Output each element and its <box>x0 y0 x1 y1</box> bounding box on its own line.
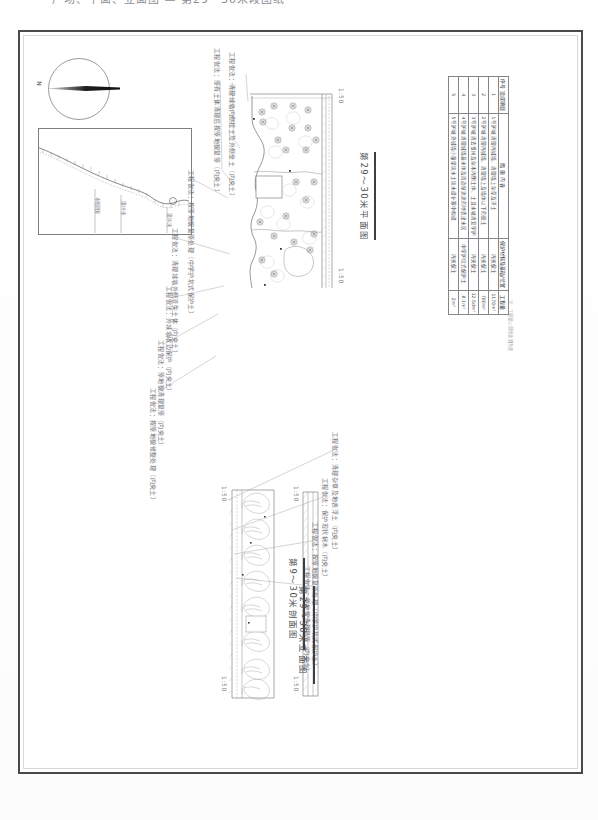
cell-material-1: 内夹保土 <box>488 239 498 291</box>
scale-mark-elev-bottom: 1:50 <box>221 676 228 692</box>
th-desc: 措 施 内 容 <box>498 113 508 238</box>
caption-plan-rule <box>374 152 376 240</box>
annotation-text-8: 工程做法：保护现状树木（内夹土） <box>321 478 330 580</box>
cell-detail-4: 清理城墙基水体及周边渐流流的地表出水区 <box>461 136 466 231</box>
cell-qty-5: 2m² <box>448 290 458 314</box>
annotation-text-5: 工程做法：原地貌清理复原（内夹土） <box>157 340 166 449</box>
caption-section-rule <box>313 586 315 684</box>
cell-qty-1: 1170m² <box>488 290 498 314</box>
table-header-row: 序号 造成项目 措 施 内 容 保护材料及基础/位置 工程量 <box>498 77 508 315</box>
cell-detail-2: 清理内城墙、清理墙上及墙体以下的挂土 <box>481 136 486 226</box>
annotation-text-1: 工程做法：清理城墙内侧挂土及外侧垒土（内夹土） <box>228 52 237 199</box>
quantity-table: 序号 造成项目 措 施 内 容 保护材料及基础/位置 工程量 1 1号护坡 清理… <box>448 76 509 315</box>
cell-detail-3: 清去根树及杂木内侧土体、土且水坡清复学护 <box>471 136 476 236</box>
annotation-text-7: 工程做法：清理杂草及地表浮土（内夹土） <box>331 432 340 554</box>
inset-label-2: 第30米 <box>167 213 173 227</box>
cell-material-2: 内夹保土 <box>478 239 488 291</box>
cell-material-4: 中学护坑式保护土 <box>458 239 468 291</box>
cell-no-5: 5 <box>448 77 458 114</box>
cell-name-3: 3号护坡 <box>471 117 476 135</box>
annotation-text-0: 工程做法：原有土体清理后按原地貌复原（内夹土） <box>213 48 222 195</box>
cell-desc-5: 5号护坡 外城墙小量堡块水土块水缝补塞中和缝 <box>448 113 458 238</box>
table-row: 2 2号护坡 清理内城墙、清理墙上及墙体以下的挂土 内夹保土 780m² <box>478 77 488 315</box>
table-note: 注：工程量以现场实测为准 <box>508 300 514 352</box>
caption-section: 第29～30米立面图 <box>298 586 310 676</box>
cell-desc-1: 1号护坡 清理内城墙、清理墙上杂草及浮土 <box>488 113 498 238</box>
th-no: 序号 造成项目 <box>498 77 508 114</box>
cell-name-1: 1号护坡 <box>491 117 496 135</box>
figure-plan-drawing <box>228 88 346 293</box>
scale-mark-sect-top: 1:50 <box>293 486 300 502</box>
inset-label-0: 本图范围 <box>95 197 101 213</box>
annotation-text-2: 工程做法：按原地貌复原处理（中学护坑式保护土） <box>187 170 196 317</box>
table-row: 4 4号护坡 清理城墙基水体及周边渐流流的地表出水区 中学护坑式保护土 8.1m… <box>458 77 468 315</box>
header-cutoff-text: 广场、平面、立面图 — 第29～30米段图纸 <box>52 0 352 11</box>
cell-name-5: 5号护坡 <box>451 117 456 135</box>
th-material: 保护材料及基础/位置 <box>498 239 508 291</box>
compass-rose: N <box>48 58 110 120</box>
scale-mark-plan-top: 1:50 <box>338 88 345 104</box>
scale-mark-plan-bottom: 1:50 <box>338 268 345 284</box>
th-qty: 工程量 <box>498 290 508 314</box>
cell-material-5: 内夹保土 <box>448 239 458 291</box>
cell-qty-2: 780m² <box>478 290 488 314</box>
scale-mark-sect-bottom: 1:50 <box>293 676 300 692</box>
cell-name-2: 2号护坡 <box>481 117 486 135</box>
header-cutoff-label: 广场、平面、立面图 — 第29～30米段图纸 <box>52 0 352 5</box>
cell-desc-2: 2号护坡 清理内城墙、清理墙上及墙体以下的挂土 <box>478 113 488 238</box>
cell-no-2: 2 <box>478 77 488 114</box>
table-row: 3 3号护坡 清去根树及杂木内侧土体、土且水坡清复学护 内夹保土 12.5dm² <box>468 77 478 315</box>
cell-name-4: 4号护坡 <box>461 117 466 135</box>
cell-material-3: 内夹保土 <box>468 239 478 291</box>
compass-north-label: N <box>36 81 43 86</box>
cell-desc-3: 3号护坡 清去根树及杂木内侧土体、土且水坡清复学护 <box>468 113 478 238</box>
inset-label-1: 第29米 <box>121 201 127 215</box>
cell-desc-4: 4号护坡 清理城墙基水体及周边渐流流的地表出水区 <box>458 113 468 238</box>
annotation-text-4: 工程做法：外城墙收边保护（内夹土） <box>165 286 174 395</box>
table-row: 1 1号护坡 清理内城墙、清理墙上杂草及浮土 内夹保土 1170m² <box>488 77 498 315</box>
scale-mark-elev-top: 1:50 <box>221 486 228 502</box>
cell-no-4: 4 <box>458 77 468 114</box>
cell-detail-5: 外城墙小量堡块水土块水缝补塞中和缝 <box>451 136 456 221</box>
plan-graphic <box>228 88 346 293</box>
quantity-table-wrapper: 序号 造成项目 措 施 内 容 保护材料及基础/位置 工程量 1 1号护坡 清理… <box>448 76 509 315</box>
table-row: 5 5号护坡 外城墙小量堡块水土块水缝补塞中和缝 内夹保土 2m² <box>448 77 458 315</box>
inset-location-map: 本图范围 第29米 第30米 <box>38 128 192 235</box>
cell-no-3: 3 <box>468 77 478 114</box>
cell-qty-3: 12.5dm² <box>468 290 478 314</box>
annotation-text-6: 工程做法：按原地貌修整处理（内夹土） <box>149 388 158 503</box>
cell-no-1: 1 <box>488 77 498 114</box>
cell-qty-4: 8.1m² <box>458 290 468 314</box>
cell-detail-1: 清理内城墙、清理墙上杂草及浮土 <box>491 136 496 211</box>
caption-plan: 第29～30米平面图 <box>359 152 371 242</box>
